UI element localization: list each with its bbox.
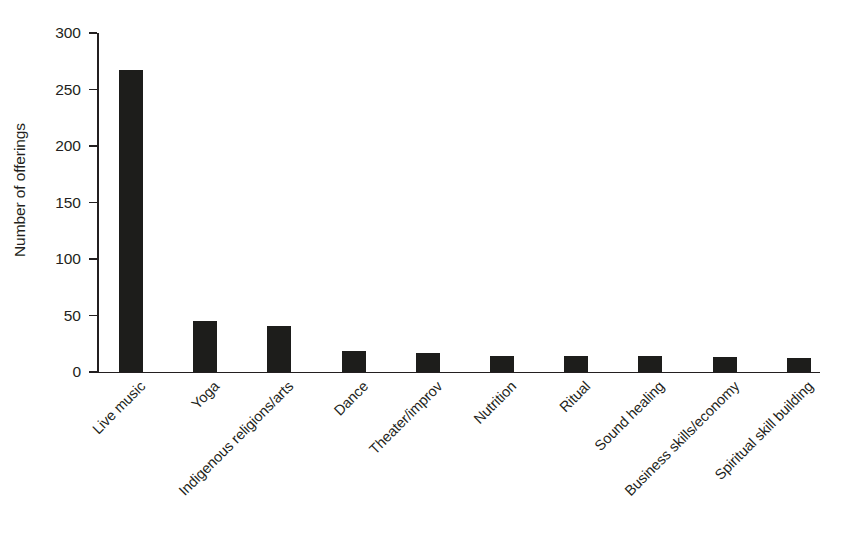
x-tick-label-text: Dance: [330, 378, 371, 419]
bar: [713, 357, 737, 372]
x-tick-label-text: Sound healing: [592, 378, 668, 454]
bar-chart: Number of offerings 050100150200250300 L…: [0, 0, 856, 552]
y-tick-label: 250: [41, 81, 81, 99]
y-tick-mark: [89, 315, 97, 317]
bar: [638, 356, 662, 372]
x-tick-label-text: Live music: [89, 378, 148, 437]
y-tick-mark: [89, 258, 97, 260]
bar: [267, 326, 291, 372]
y-tick-label: 50: [41, 307, 81, 325]
bar: [787, 358, 811, 372]
x-tick-label-text: Yoga: [188, 378, 222, 412]
x-tick-label-text: Nutrition: [470, 378, 519, 427]
y-tick-label: 300: [41, 24, 81, 42]
x-tick-label-text: Theater/improv: [366, 378, 445, 457]
y-tick-label: 200: [41, 137, 81, 155]
y-tick-mark: [89, 371, 97, 373]
y-tick-mark: [89, 145, 97, 147]
y-axis-title: Number of offerings: [0, 0, 40, 380]
bar: [119, 70, 143, 372]
y-axis-title-label: Number of offerings: [11, 123, 29, 257]
y-tick-mark: [89, 32, 97, 34]
bar: [193, 321, 217, 372]
bar: [342, 351, 366, 372]
bar: [564, 356, 588, 372]
x-tick-label-text: Ritual: [556, 378, 593, 415]
bar: [490, 356, 514, 372]
y-tick-mark: [89, 202, 97, 204]
y-tick-label: 150: [41, 194, 81, 212]
y-tick-mark: [89, 89, 97, 91]
y-tick-label: 100: [41, 250, 81, 268]
y-tick-label: 0: [41, 363, 81, 381]
bar: [416, 353, 440, 372]
